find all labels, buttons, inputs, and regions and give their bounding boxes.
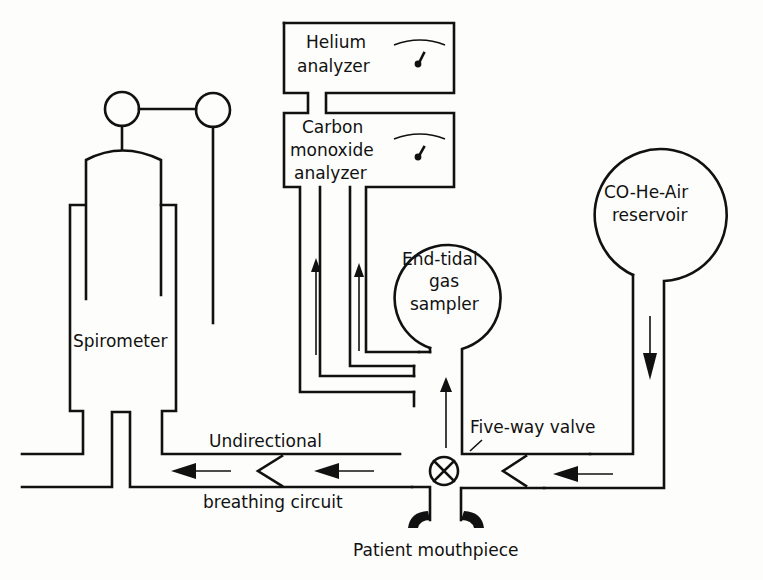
end-tidal-label-3: sampler (410, 294, 479, 314)
arrow-left-icon (553, 466, 613, 482)
arrow-up-icon (354, 263, 364, 351)
arrow-down-icon (643, 316, 657, 380)
helium-analyzer (284, 23, 454, 392)
arrow-left-icon (171, 463, 231, 479)
reservoir-label-2: reservoir (612, 205, 688, 225)
mouthpiece-icon (408, 511, 484, 528)
arrow-up-icon (440, 377, 452, 448)
five-way-valve-label: Five-way valve (470, 417, 595, 437)
spirometer-label: Spirometer (73, 331, 167, 351)
end-tidal-label-1: End-tidal (402, 249, 478, 269)
co-analyzer-label-1: Carbon (302, 117, 363, 137)
end-tidal-label-2: gas (429, 271, 459, 291)
co-analyzer-label-3: analyzer (294, 163, 367, 183)
circuit-label-1: Undirectional (209, 431, 322, 451)
helium-analyzer-label-2: analyzer (297, 56, 370, 76)
helium-analyzer-label-1: Helium (306, 32, 366, 52)
five-way-valve-icon (430, 457, 458, 485)
circuit-label-2: breathing circuit (203, 492, 343, 512)
arrow-left-icon (314, 463, 374, 479)
mouthpiece-label: Patient mouthpiece (353, 540, 519, 560)
reservoir-label-1: CO-He-Air (604, 182, 688, 202)
spirometer-bell (86, 151, 161, 300)
diagram-canvas: Spirometer Helium analyzer Carbon monoxi… (0, 0, 763, 580)
one-way-valve-icon (503, 456, 526, 486)
spirometer-counterweight (105, 92, 230, 323)
one-way-valve-icon (258, 456, 282, 486)
co-analyzer-label-2: monoxide (290, 140, 374, 160)
